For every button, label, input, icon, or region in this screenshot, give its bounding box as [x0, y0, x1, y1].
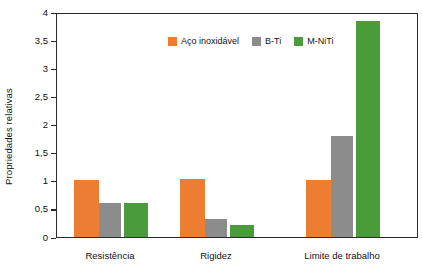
y-axis-tick-label: 2,5	[35, 91, 48, 103]
bar	[331, 136, 353, 237]
x-axis-category-label: Resistência	[85, 250, 134, 262]
bar	[230, 225, 254, 237]
legend-swatch-icon	[168, 37, 177, 46]
y-axis-tick-mark	[51, 97, 56, 98]
y-axis-tick-mark	[51, 69, 56, 70]
y-axis-tick-label: 4	[43, 7, 48, 19]
y-axis-tick-mark	[51, 41, 56, 42]
bar-chart: Propriedades relativas Aço inoxidávelB-T…	[0, 0, 422, 273]
bar	[356, 21, 380, 237]
y-axis-tick-label: 0,5	[35, 203, 48, 215]
bar	[306, 180, 331, 237]
legend-item-label: M-NiTi	[307, 36, 333, 46]
y-axis-tick-mark	[51, 181, 56, 182]
legend-swatch-icon	[294, 37, 303, 46]
y-axis-tick-label: 1,5	[35, 147, 48, 159]
bar	[74, 180, 99, 237]
y-axis-tick-label: 1	[43, 175, 48, 187]
y-axis-tick-label: 2	[43, 119, 48, 131]
y-axis-title: Propriedades relativas	[0, 0, 16, 273]
bar	[124, 203, 148, 237]
legend-swatch-icon	[252, 37, 261, 46]
legend-item[interactable]: Aço inoxidável	[168, 36, 239, 46]
y-axis-tick-label: 0	[43, 232, 48, 244]
y-axis-tick-mark	[51, 153, 56, 154]
y-axis-tick-mark	[51, 209, 56, 210]
legend-item-label: Aço inoxidável	[181, 36, 239, 46]
x-axis-category-label: Rigidez	[200, 250, 232, 262]
bar	[180, 179, 205, 237]
x-axis-category-label: Limite de trabalho	[304, 250, 380, 262]
chart-legend: Aço inoxidávelB-TiM-NiTi	[168, 36, 333, 46]
plot-area	[56, 13, 418, 238]
y-axis-tick-mark	[51, 125, 56, 126]
legend-item[interactable]: M-NiTi	[294, 36, 333, 46]
bar	[205, 219, 227, 237]
legend-item[interactable]: B-Ti	[252, 36, 281, 46]
y-axis-tick-label: 3,5	[35, 35, 48, 47]
y-axis-tick-label: 3	[43, 63, 48, 75]
y-axis-tick-mark	[51, 13, 56, 14]
legend-item-label: B-Ti	[265, 36, 281, 46]
y-axis-tick-mark	[51, 238, 56, 239]
bar	[99, 203, 121, 237]
